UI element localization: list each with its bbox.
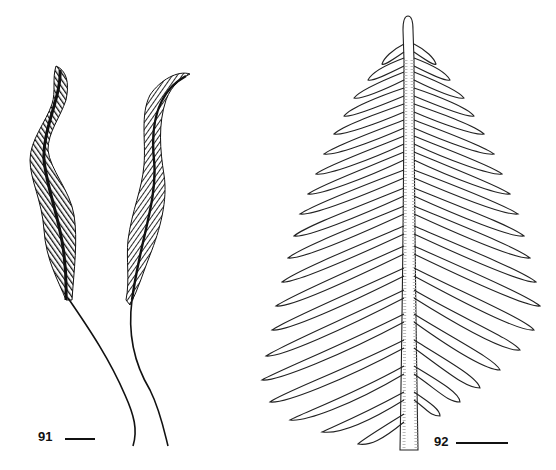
- plume-colonies-drawing: [0, 0, 240, 470]
- figure-91-panel: 91: [0, 0, 240, 470]
- scale-bar-91: [65, 438, 95, 440]
- figure-92-panel: 92: [250, 0, 556, 470]
- figure-label-92: 92: [434, 434, 448, 449]
- figure-label-91: 91: [38, 429, 52, 444]
- scale-bar-92: [456, 442, 508, 444]
- feather-frond-drawing: [250, 0, 556, 470]
